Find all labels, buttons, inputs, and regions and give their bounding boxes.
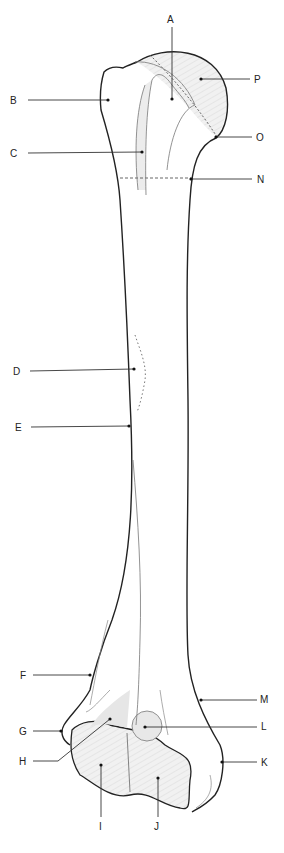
label-e: E xyxy=(15,423,22,433)
label-p: P xyxy=(254,75,261,85)
label-c: C xyxy=(10,149,17,159)
label-b: B xyxy=(10,96,17,106)
label-j: J xyxy=(154,822,159,832)
radial-fossa xyxy=(90,690,130,728)
label-i: I xyxy=(99,822,102,832)
humeral-head xyxy=(137,51,227,137)
label-m: M xyxy=(260,695,268,705)
label-k: K xyxy=(261,758,268,768)
deltoid-tuberosity-line xyxy=(135,335,145,412)
label-f: F xyxy=(20,671,26,681)
label-h: H xyxy=(19,757,26,767)
label-n: N xyxy=(257,175,264,185)
label-a: A xyxy=(167,15,174,25)
trochlea-surface xyxy=(71,721,191,808)
label-g: G xyxy=(19,727,27,737)
label-l: L xyxy=(261,722,267,732)
humerus-diagram xyxy=(0,0,284,853)
medial-epicondyle-line xyxy=(196,775,211,808)
shaft-inner-line xyxy=(133,460,141,725)
label-d: D xyxy=(13,367,20,377)
label-o: O xyxy=(256,133,264,143)
